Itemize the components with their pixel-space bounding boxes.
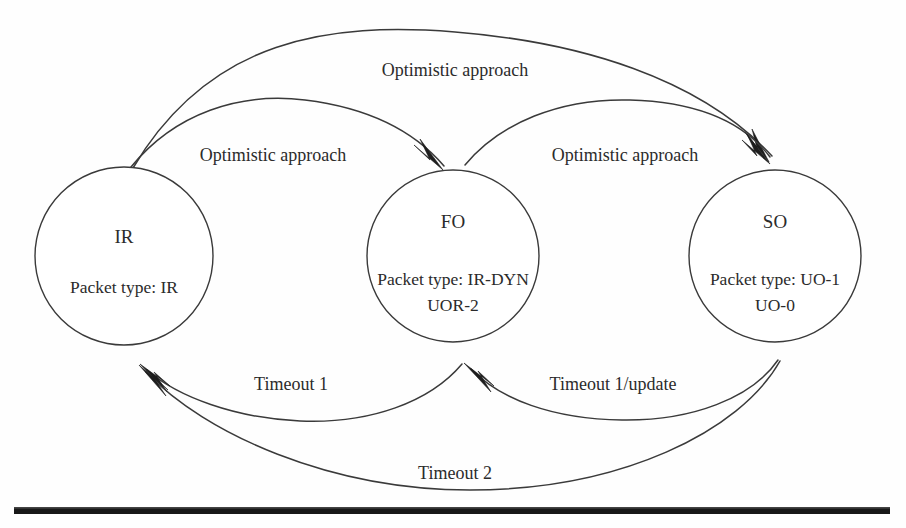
- bottom-rule-texture: [14, 507, 890, 509]
- state-packet-so-line2: UO-0: [755, 295, 795, 315]
- state-circle-fo[interactable]: [367, 170, 539, 342]
- state-circle-ir[interactable]: [35, 167, 213, 345]
- transition-label-ir-to-so: Optimistic approach: [382, 60, 528, 80]
- state-packet-ir-line1: Packet type: IR: [70, 277, 178, 297]
- state-circle-so[interactable]: [689, 170, 861, 342]
- state-node-ir[interactable]: IR Packet type: IR: [35, 167, 213, 345]
- state-machine-diagram: IR Packet type: IR FO Packet type: IR-DY…: [0, 0, 906, 528]
- state-packet-fo-line2: UOR-2: [427, 295, 479, 315]
- transition-ir-to-fo-arrowhead: [414, 139, 443, 170]
- state-packet-so-line1: Packet type: UO-1: [710, 269, 840, 289]
- transition-label-fo-to-ir: Timeout 1: [254, 374, 328, 394]
- transition-label-so-to-ir: Timeout 2: [418, 463, 492, 483]
- state-node-fo[interactable]: FO Packet type: IR-DYN UOR-2: [367, 170, 539, 342]
- bottom-rule: [14, 507, 890, 514]
- state-label-fo: FO: [441, 211, 465, 232]
- state-diagram-canvas: IR Packet type: IR FO Packet type: IR-DY…: [0, 0, 906, 528]
- transition-so-to-fo-arrowhead: [464, 363, 494, 392]
- transition-label-so-to-fo: Timeout 1/update: [550, 374, 677, 394]
- state-label-so: SO: [763, 211, 787, 232]
- state-packet-fo-line1: Packet type: IR-DYN: [377, 269, 529, 289]
- state-node-so[interactable]: SO Packet type: UO-1 UO-0: [689, 170, 861, 342]
- transition-label-ir-to-fo: Optimistic approach: [200, 145, 346, 165]
- transition-label-fo-to-so: Optimistic approach: [552, 145, 698, 165]
- state-label-ir: IR: [115, 226, 134, 247]
